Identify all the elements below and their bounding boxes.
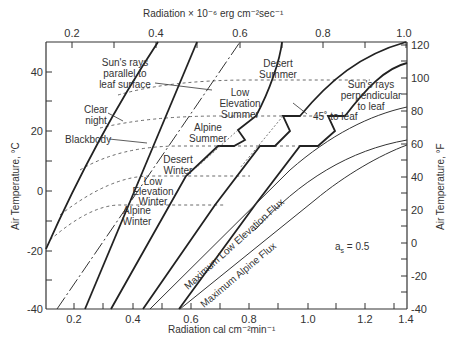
label-desert-summer: Desert Summer: [259, 58, 297, 80]
svg-text:leaf surface: leaf surface: [99, 79, 151, 90]
top-ticks: [72, 42, 406, 48]
svg-text:parallel to: parallel to: [103, 68, 147, 79]
right-ticks: [401, 45, 407, 292]
bottom-ticks: [74, 303, 394, 309]
svg-text:-20: -20: [411, 270, 427, 282]
right-axis-title: Air Temperature, °F: [435, 143, 446, 230]
svg-text:0: 0: [37, 185, 43, 197]
svg-text:Alpine: Alpine: [123, 205, 151, 216]
label-max-alpine-flux: Maximum Alpine Flux: [198, 240, 278, 310]
svg-text:0.6: 0.6: [183, 313, 198, 325]
svg-text:to leaf: to leaf: [357, 101, 384, 112]
left-tick-labels: 40 20 0 -20 -40: [27, 66, 43, 315]
label-45-to-leaf: 45˚ to leaf: [313, 111, 358, 122]
svg-text:1.0: 1.0: [396, 27, 411, 39]
svg-text:100: 100: [411, 72, 429, 84]
top-tick-labels: 0.2 0.4 0.6 0.8 1.0: [64, 27, 411, 39]
label-alpine-summer: Alpine Summer: [189, 122, 227, 144]
svg-text:40: 40: [411, 171, 423, 183]
label-sun-parallel: Sun's rays parallel to leaf surface: [99, 57, 151, 90]
svg-text:Desert: Desert: [163, 154, 193, 165]
label-blackbody: Blackbody: [65, 134, 111, 145]
label-sun-perpendicular: Sun's rays perpendicular to leaf: [341, 79, 402, 112]
svg-text:20: 20: [31, 125, 43, 137]
top-axis-title: Radiation × 10⁻⁶ erg cm⁻²sec⁻¹: [143, 8, 284, 19]
svg-text:Clear: Clear: [84, 104, 109, 115]
svg-text:Low: Low: [231, 87, 250, 98]
svg-text:Desert: Desert: [263, 58, 293, 69]
svg-text:Sun's rays: Sun's rays: [102, 57, 148, 68]
left-axis-title: Air Temperature, °C: [10, 142, 21, 230]
curve-max-alpine-flux: [180, 145, 407, 309]
label-albedo-param: as = 0.5: [335, 241, 370, 254]
svg-text:-20: -20: [27, 245, 43, 257]
svg-text:80: 80: [411, 105, 423, 117]
right-tick-labels: 120 100 80 60 40 20 0 -20 -40: [411, 39, 429, 315]
svg-text:-40: -40: [411, 303, 427, 315]
svg-text:0.2: 0.2: [66, 313, 81, 325]
svg-text:0.8: 0.8: [241, 313, 256, 325]
label-alpine-winter: Alpine Winter: [123, 205, 153, 227]
svg-text:perpendicular: perpendicular: [341, 90, 402, 101]
curve-extra-thin: [255, 140, 407, 230]
svg-text:Elevation: Elevation: [219, 98, 260, 109]
svg-text:1.2: 1.2: [357, 313, 372, 325]
svg-text:0: 0: [411, 237, 417, 249]
svg-text:Winter: Winter: [164, 165, 194, 176]
svg-text:Summer: Summer: [259, 69, 297, 80]
svg-text:Alpine: Alpine: [194, 122, 222, 133]
svg-text:60: 60: [411, 138, 423, 150]
svg-text:as = 0.5: as = 0.5: [335, 241, 370, 254]
svg-text:Summer: Summer: [189, 133, 227, 144]
svg-text:Summer: Summer: [221, 109, 259, 120]
svg-text:Winter: Winter: [123, 216, 153, 227]
svg-text:0.4: 0.4: [125, 313, 140, 325]
svg-text:40: 40: [31, 66, 43, 78]
svg-text:-40: -40: [27, 303, 43, 315]
svg-text:120: 120: [411, 39, 429, 51]
svg-text:Sun's rays: Sun's rays: [348, 79, 394, 90]
svg-text:0.4: 0.4: [148, 27, 163, 39]
energy-budget-chart: Radiation × 10⁻⁶ erg cm⁻²sec⁻¹ Radiation…: [0, 0, 456, 349]
svg-text:0.2: 0.2: [64, 27, 79, 39]
label-desert-winter: Desert Winter: [163, 154, 193, 176]
svg-text:20: 20: [411, 204, 423, 216]
svg-text:0.8: 0.8: [315, 27, 330, 39]
svg-text:0.6: 0.6: [232, 27, 247, 39]
svg-text:1.0: 1.0: [300, 313, 315, 325]
svg-text:night: night: [85, 115, 107, 126]
bottom-axis-title: Radiation cal cm⁻²min⁻¹: [168, 324, 276, 335]
label-clear-night: Clear night: [84, 104, 109, 126]
label-low-elevation-summer: Low Elevation Summer: [219, 87, 260, 120]
